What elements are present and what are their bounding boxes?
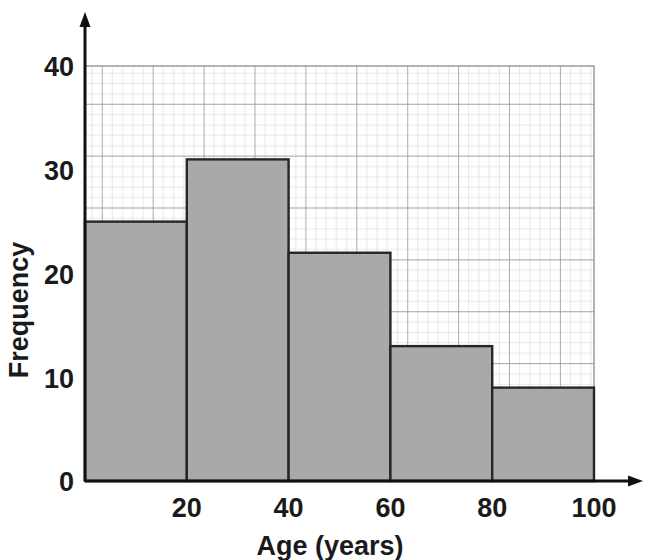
x-tick-label-60: 60 [375, 493, 405, 523]
y-tick-label-30: 30 [44, 156, 74, 186]
bar-60-80 [390, 346, 492, 481]
histogram-svg: 40 30 20 10 0 20 40 60 80 100 Age (years… [0, 0, 647, 560]
x-tick-label-80: 80 [477, 493, 507, 523]
bar-80-100 [492, 388, 594, 481]
bar-40-60 [289, 253, 391, 481]
x-axis-title: Age (years) [256, 531, 403, 560]
x-tick-label-20: 20 [172, 493, 202, 523]
bar-20-40 [187, 159, 289, 481]
y-tick-label-10: 10 [44, 364, 74, 394]
bar-0-20 [85, 222, 187, 481]
x-tick-label-100: 100 [571, 493, 616, 523]
y-tick-label-40: 40 [44, 52, 74, 82]
x-tick-label-40: 40 [274, 493, 304, 523]
y-tick-label-0: 0 [59, 467, 74, 497]
y-tick-label-20: 20 [44, 260, 74, 290]
y-axis-title: Frequency [4, 242, 34, 379]
histogram-chart: 40 30 20 10 0 20 40 60 80 100 Age (years… [0, 0, 647, 560]
